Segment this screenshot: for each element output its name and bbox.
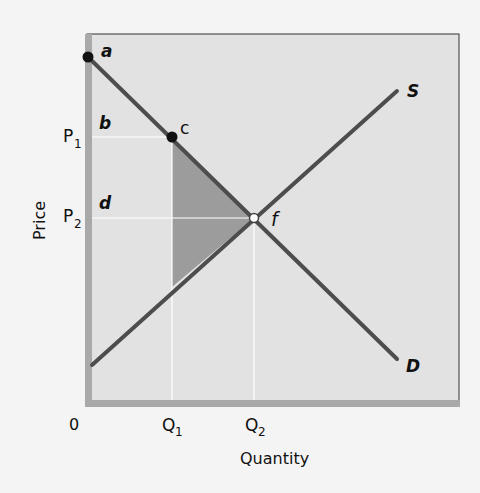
- x-tick-q2: Q 2: [245, 415, 266, 439]
- svg-text:1: 1: [74, 137, 82, 151]
- x-axis: [85, 400, 460, 407]
- label-c: c: [180, 118, 189, 138]
- label-a: a: [101, 41, 112, 61]
- svg-text:2: 2: [74, 217, 82, 231]
- svg-text:P: P: [63, 206, 73, 226]
- origin-label: 0: [69, 415, 79, 434]
- point-c-marker: [167, 132, 178, 143]
- svg-text:2: 2: [258, 425, 266, 439]
- label-d: d: [99, 193, 112, 213]
- x-tick-q1: Q 1: [162, 415, 183, 439]
- label-demand: D: [406, 356, 420, 376]
- svg-text:Q: Q: [162, 415, 175, 435]
- y-axis-title: Price: [30, 201, 49, 240]
- svg-text:1: 1: [175, 425, 183, 439]
- y-axis: [85, 34, 92, 407]
- label-b: b: [99, 113, 111, 133]
- point-f-marker: [250, 214, 259, 223]
- label-supply: S: [407, 81, 419, 101]
- supply-demand-diagram: a b c d f S D P 1 P 2 0 Q 1 Q 2 Quantity…: [0, 0, 480, 493]
- svg-text:Q: Q: [245, 415, 258, 435]
- x-axis-title: Quantity: [240, 449, 309, 468]
- y-tick-p1: P 1: [63, 126, 82, 151]
- y-tick-p2: P 2: [63, 206, 82, 231]
- svg-text:P: P: [63, 126, 73, 146]
- point-a-marker: [83, 52, 94, 63]
